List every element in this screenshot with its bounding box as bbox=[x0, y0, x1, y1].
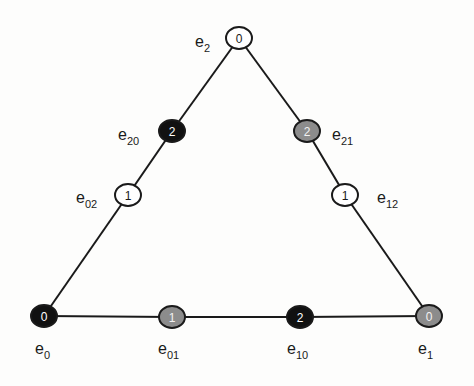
node-value: 1 bbox=[169, 311, 176, 325]
node-value: 1 bbox=[342, 189, 349, 203]
vertex-label-e21: e21 bbox=[332, 126, 353, 147]
vertex-label-e0: e0 bbox=[35, 340, 50, 361]
node-value: 2 bbox=[304, 125, 311, 139]
diagram-canvas: 022110120 e2e20e21e02e12e0e01e10e1 bbox=[0, 0, 474, 386]
node-e12: 1 bbox=[332, 184, 358, 206]
node-value: 2 bbox=[297, 311, 304, 325]
node-value: 0 bbox=[426, 310, 433, 324]
edge-e0-e01 bbox=[44, 316, 172, 317]
node-value: 2 bbox=[169, 125, 176, 139]
edge-e10-e1 bbox=[300, 316, 429, 317]
node-layer: 022110120 bbox=[31, 27, 442, 328]
vertex-label-e12: e12 bbox=[377, 189, 398, 210]
vertex-label-e20: e20 bbox=[118, 126, 139, 147]
node-e10: 2 bbox=[287, 306, 313, 328]
node-e01: 1 bbox=[159, 306, 185, 328]
node-e20: 2 bbox=[159, 120, 185, 142]
triangle-graph: 022110120 e2e20e21e02e12e0e01e10e1 bbox=[0, 0, 474, 386]
node-value: 0 bbox=[236, 32, 243, 46]
node-e1: 0 bbox=[416, 305, 442, 327]
node-value: 1 bbox=[125, 189, 132, 203]
edge-e12-e1 bbox=[345, 195, 429, 316]
vertex-label-e10: e10 bbox=[287, 340, 308, 361]
edge-e02-e0 bbox=[44, 195, 128, 316]
edge-e2-e21 bbox=[239, 38, 307, 131]
vertex-label-e2: e2 bbox=[195, 33, 210, 54]
node-e2: 0 bbox=[226, 27, 252, 49]
node-e21: 2 bbox=[294, 120, 320, 142]
vertex-label-e1: e1 bbox=[418, 340, 433, 361]
vertex-label-e02: e02 bbox=[76, 189, 97, 210]
edge-layer bbox=[44, 38, 429, 317]
label-layer: e2e20e21e02e12e0e01e10e1 bbox=[35, 33, 433, 361]
node-value: 0 bbox=[41, 310, 48, 324]
node-e02: 1 bbox=[115, 184, 141, 206]
node-e0: 0 bbox=[31, 305, 57, 327]
vertex-label-e01: e01 bbox=[158, 340, 179, 361]
